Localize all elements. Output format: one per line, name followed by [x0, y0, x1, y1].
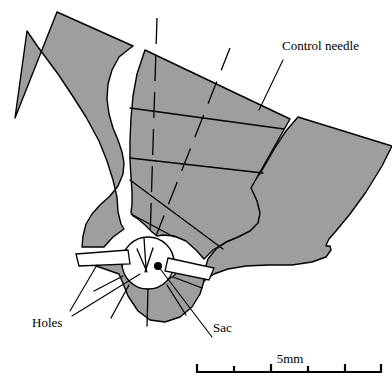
control-needle-label: Control needle	[282, 38, 359, 53]
holes-label: Holes	[32, 315, 62, 330]
sac-label: Sac	[213, 320, 232, 335]
scale-bar-label: 5mm	[277, 351, 304, 366]
sac-marker-dot	[154, 262, 162, 270]
injector-nozzle-diagram: Control needle Holes Sac 5mm	[0, 0, 392, 389]
